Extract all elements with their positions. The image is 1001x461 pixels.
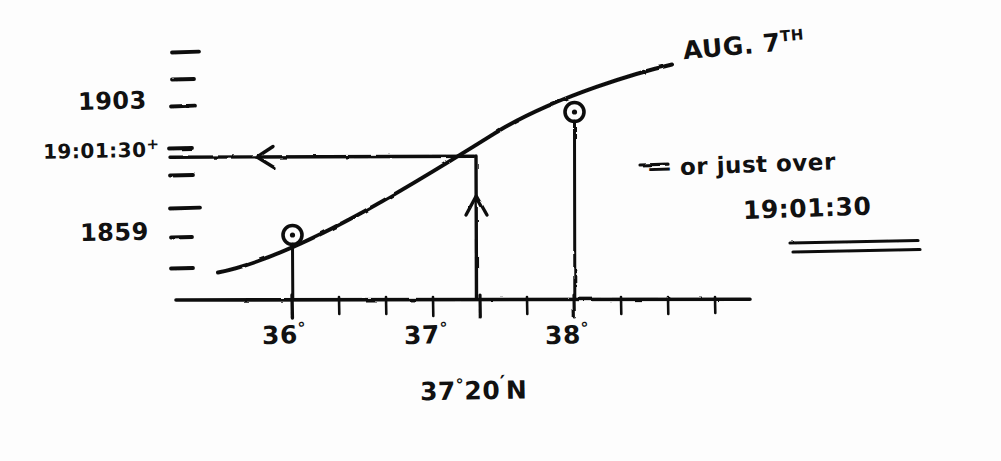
data-point-38	[565, 103, 584, 122]
y-tick-3	[171, 106, 195, 107]
x-label-38-value: 38	[545, 320, 582, 350]
x-axis-line	[176, 299, 750, 300]
x-label-38: 38°	[544, 318, 589, 350]
note-underline-upper	[790, 241, 918, 244]
paper-sheet: 1903 19:01:30+ 1859 36° 37° 38° 37°20′N …	[0, 0, 1001, 461]
latitude-degrees: 37	[420, 377, 456, 407]
y-label-1903: 1903	[78, 86, 148, 116]
y-label-1859: 1859	[80, 218, 149, 247]
data-point-36	[283, 226, 302, 245]
bottom-latitude-label: 37°20′N	[420, 370, 528, 406]
x-label-36: 36°	[261, 318, 306, 350]
y-axis-ticks	[169, 52, 200, 269]
y-label-190130-text: 19:01:30	[43, 138, 147, 164]
degree-symbol-icon: °	[297, 318, 306, 337]
note-underline-lower	[793, 250, 920, 253]
degree-symbol-icon: °	[580, 318, 589, 337]
y-tick-7	[171, 237, 192, 238]
series-date-ordinal: TH	[779, 25, 804, 45]
x-label-37: 37°	[403, 318, 448, 350]
x-label-37-value: 37	[404, 320, 441, 350]
latitude-hemisphere: N	[506, 375, 528, 404]
data-point-markers	[283, 103, 584, 245]
y-label-190130-plus: +	[146, 135, 159, 153]
y-tick-8	[171, 268, 193, 269]
y-tick-5	[170, 175, 193, 176]
y-tick-1	[172, 52, 199, 53]
degree-symbol-icon: °	[439, 318, 448, 337]
x-label-36-value: 36	[262, 320, 299, 350]
y-tick-6	[170, 208, 200, 209]
y-tick-2	[172, 79, 194, 80]
latitude-minutes: 20	[464, 376, 500, 406]
y-tick-4	[169, 148, 192, 149]
readout-horizontal-line	[170, 156, 474, 157]
note-line-2: 19:01:30	[742, 192, 871, 225]
y-label-190130: 19:01:30+	[43, 135, 160, 164]
readout-vertical-line	[476, 156, 477, 299]
